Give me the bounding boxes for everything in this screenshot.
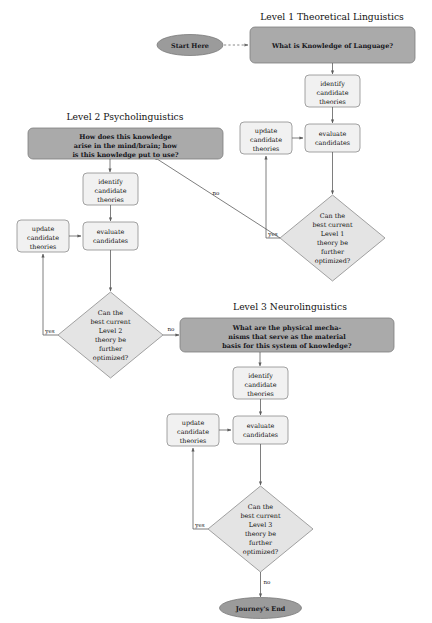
level2-identify-line-2: theories [97,196,123,204]
level3-evaluate-line-1: candidates [243,431,278,439]
level3-decision-line-3: theory be [245,530,276,538]
level1-identify-line-0: identify [320,80,345,88]
section-title-level2: Level 2 Psycholinguistics [67,111,184,122]
flowchart-canvas: Level 1 Theoretical Linguistics Start He… [0,0,432,623]
level1-decision-line-5: optimized? [315,257,351,265]
level2-decision-line-5: optimized? [93,354,129,362]
level3-yes-label: yes [194,522,204,529]
level1-identify-line-1: candidate [317,89,349,97]
level1-decision-line-2: Level 1 [321,230,345,238]
level1-no-label: no [213,190,221,196]
level2-evaluate-line-1: candidates [93,237,128,245]
level1-evaluate-line-0: evaluate [319,130,347,138]
edge-level2-yes [43,254,58,335]
edge-level3-yes [193,448,208,529]
level3-decision-line-1: best current [240,512,280,520]
level1-decision-line-0: Can the [320,212,346,220]
section-title-level1: Level 1 Theoretical Linguistics [260,11,404,22]
level2-identify-line-1: candidate [95,187,127,195]
level2-question-line-0: How does this knowledge [79,133,171,141]
level1-decision-line-1: best current [312,221,352,229]
level2-decision-line-2: Level 2 [99,327,123,335]
level3-no-label: no [264,579,272,585]
level1-evaluate-line-1: candidates [315,139,350,147]
level2-no-label: no [168,326,176,332]
level2-update-line-2: theories [30,243,56,251]
flowchart-svg: Level 1 Theoretical Linguistics Start He… [0,0,432,623]
level2-decision-diamond [58,292,163,378]
level3-evaluate-line-0: evaluate [247,422,275,430]
level3-decision-line-2: Level 3 [249,521,273,529]
level2-identify-line-0: identify [98,178,123,186]
level3-decision-line-5: optimized? [243,548,279,556]
level1-yes-label: yes [267,231,277,238]
level3-decision-line-4: further [249,539,273,547]
level1-decision-line-4: further [321,248,345,256]
level2-decision-line-4: further [99,345,123,353]
level2-update-line-1: candidate [27,234,59,242]
level1-update-line-2: theories [253,145,279,153]
edge-level1-no-to-level2 [154,157,280,238]
level3-update-line-0: update [182,419,205,427]
level3-decision-line-0: Can the [248,503,274,511]
level3-identify-line-0: identify [248,372,273,380]
level3-identify-line-1: candidate [245,381,277,389]
level2-decision-line-3: theory be [95,336,126,344]
level3-question-line-1: nisms that serve as the material [228,333,346,341]
level2-decision-line-1: best current [90,318,130,326]
end-terminal-label: Journey's End [235,605,286,613]
level2-question-line-1: arise in the mind/brain; how [74,142,178,150]
level3-update-line-2: theories [180,437,206,445]
level3-decision-diamond [208,486,313,572]
level1-question-line-0: What is Knowledge of Language? [271,42,393,50]
level1-update-line-1: candidate [250,136,282,144]
level1-decision-line-3: theory be [317,239,348,247]
level3-question-line-0: What are the physical mecha- [232,324,342,332]
level2-evaluate-line-0: evaluate [97,228,125,236]
edge-level1-yes [266,156,280,238]
section-title-level3: Level 3 Neurolinguistics [233,301,347,312]
level2-yes-label: yes [44,328,54,335]
level1-decision-diamond [280,195,385,281]
level1-identify-line-2: theories [319,98,345,106]
level1-update-line-0: update [255,127,278,135]
level3-update-line-1: candidate [177,428,209,436]
start-terminal-label: Start Here [171,42,209,50]
level2-decision-line-0: Can the [98,309,124,317]
level3-question-line-2: basis for this system of knowledge? [222,342,352,350]
level2-update-line-0: update [32,225,55,233]
level3-identify-line-2: theories [247,390,273,398]
level2-question-line-2: is this knowledge put to use? [72,151,178,159]
